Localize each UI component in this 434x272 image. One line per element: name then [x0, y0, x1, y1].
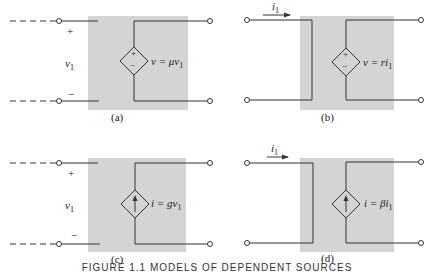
source-plus-b: +: [343, 49, 348, 59]
arrow-right-icon: [284, 13, 291, 18]
source-plus-a: +: [131, 48, 136, 58]
current-label-d: i1: [271, 142, 278, 157]
terminal-b-out-top: [419, 18, 424, 23]
figure-caption: FIGURE 1.1 MODELS OF DEPENDENT SOURCES: [0, 262, 434, 272]
terminal-c-out-top: [208, 161, 213, 166]
terminal-b-in-top: [245, 18, 250, 23]
terminal-a-out-bottom: [208, 99, 213, 104]
equation-a: v = μv1: [151, 55, 183, 70]
equation-d: i = βi1: [364, 197, 393, 212]
caption-b: (b): [321, 111, 334, 123]
current-label-b: i1: [272, 0, 279, 15]
terminal-b-in-bottom: [245, 98, 250, 103]
terminal-a-in-top: [57, 19, 62, 24]
source-minus-a: −: [130, 60, 135, 70]
control-plus-a: +: [67, 25, 73, 37]
control-plus-c: +: [68, 167, 74, 179]
source-minus-b: −: [342, 61, 347, 71]
terminal-a-in-bottom: [57, 99, 62, 104]
control-voltage-c: v1: [65, 199, 74, 214]
equation-b: v = ri1: [363, 56, 392, 71]
terminal-a-out-top: [208, 19, 213, 24]
equation-c: i = gv1: [151, 197, 181, 212]
terminal-d-in-top: [245, 161, 250, 166]
control-minus-a: −: [68, 88, 74, 100]
terminal-d-out-top: [419, 160, 424, 165]
panel-d: [245, 155, 424, 253]
arrow-right-icon: [282, 155, 289, 160]
terminal-b-out-bottom: [419, 98, 424, 103]
terminal-c-in-bottom: [57, 242, 62, 247]
panel-c: [10, 158, 213, 252]
terminal-c-in-top: [57, 161, 62, 166]
terminal-c-out-bottom: [208, 242, 213, 247]
panel-b: [245, 13, 424, 111]
control-voltage-a: v1: [65, 57, 74, 72]
dependent-sources-diagram: [0, 0, 434, 272]
terminal-d-out-bottom: [419, 241, 424, 246]
control-minus-c: −: [71, 229, 77, 241]
terminal-d-in-bottom: [245, 241, 250, 246]
caption-a: (a): [111, 111, 123, 123]
